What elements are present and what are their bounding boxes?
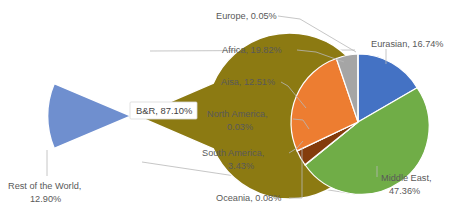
label-oceania: Oceania, 0.08% — [216, 193, 281, 203]
label-br: B&R, 87.10% — [136, 105, 192, 116]
label-middle-east-line1: Middle East, — [381, 173, 432, 183]
label-europe: Europe, 0.05% — [216, 11, 277, 21]
label-north-america-line1: North America, — [207, 109, 268, 119]
label-rest-of-world-line2: 12.90% — [30, 194, 61, 204]
br-callout: B&R, 87.10% — [130, 102, 197, 119]
label-middle-east-line2: 47.36% — [389, 186, 420, 196]
pie-of-pie-chart: Europe, 0.05% Eurasian, 16.74% Africa, 1… — [0, 0, 455, 224]
slice-rest-of-world — [48, 84, 131, 149]
label-asia: Aisa, 12.51% — [221, 77, 275, 87]
label-rest-of-world-line1: Rest of the World, — [8, 181, 81, 191]
label-africa: Africa, 19.82% — [222, 45, 282, 55]
label-eurasian: Eurasian, 16.74% — [371, 39, 444, 49]
label-south-america-line1: South America, — [202, 148, 264, 158]
label-north-america-line2: 0.03% — [227, 122, 253, 132]
label-south-america-line2: 3.43% — [228, 161, 254, 171]
